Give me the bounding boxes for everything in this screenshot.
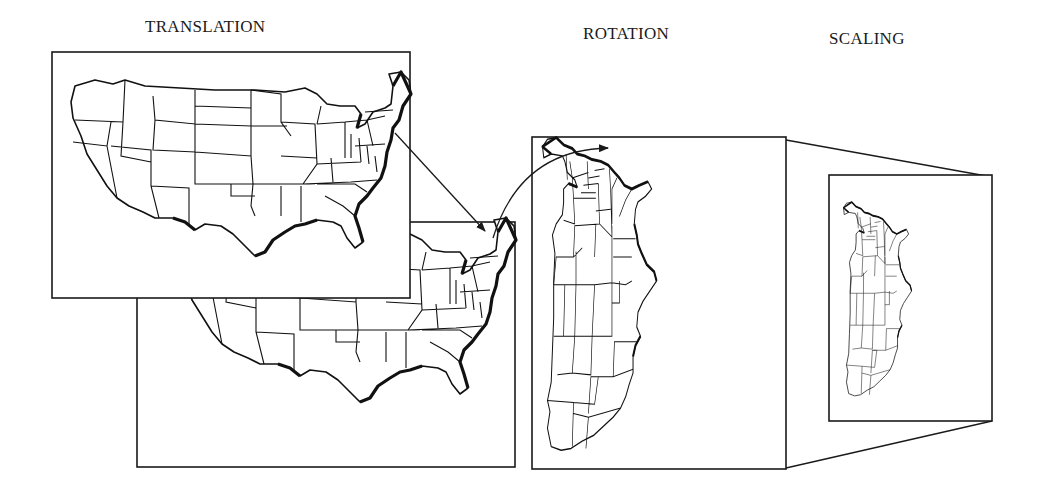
- scaling-projection-top: [786, 140, 992, 177]
- transformation-diagram: TRANSLATION ROTATION SCALING: [0, 0, 1039, 500]
- diagram-canvas: [0, 0, 1039, 500]
- scaling-projection-bottom: [786, 421, 992, 468]
